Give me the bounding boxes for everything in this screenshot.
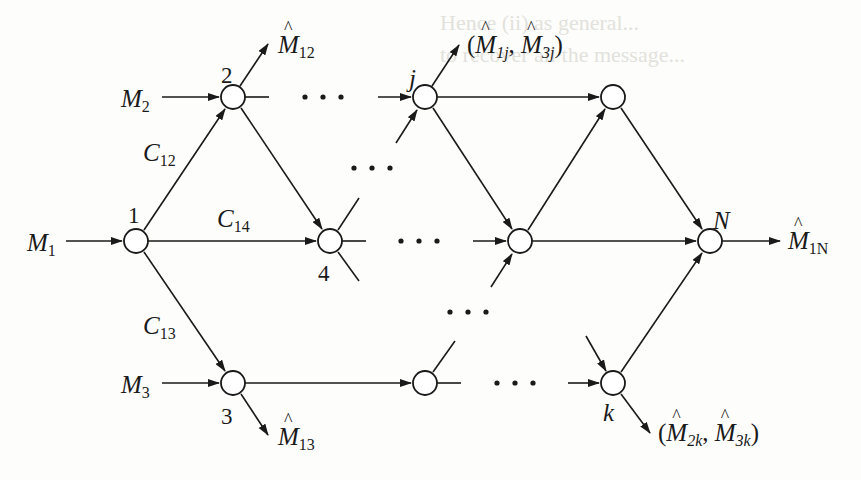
output-label-mk: (M2k, M3k) (658, 420, 759, 449)
edge-m-to-t (528, 109, 605, 230)
edge-k-out-mk (621, 394, 650, 433)
node-2 (221, 85, 245, 109)
node-label-2: 2 (221, 64, 233, 87)
node-k (601, 371, 625, 395)
node-label-1: 1 (128, 204, 140, 227)
input-label-m2: M2 (121, 86, 150, 115)
node-label-4: 4 (318, 262, 330, 285)
node-4 (318, 229, 342, 253)
edge-2-to-4 (241, 108, 322, 229)
input-label-m1: M1 (27, 230, 56, 259)
edge-into-j-diag (396, 110, 417, 143)
output-label-m13: M13 (278, 424, 315, 453)
output-label-m1n: M1N (788, 228, 828, 257)
node-label-N: N (713, 208, 730, 233)
output-label-mj: (M1j, M3j) (467, 32, 563, 61)
edge-4-stub-up (338, 198, 359, 230)
edge-4-stub-down (338, 252, 359, 281)
node-middle (508, 229, 532, 253)
node-top-right (601, 85, 625, 109)
edge-1-to-2 (144, 109, 225, 230)
ellipsis-middle (398, 238, 439, 243)
node-j (413, 85, 437, 109)
edge-label-c13: C13 (143, 313, 176, 342)
ellipsis-top (302, 94, 343, 99)
output-label-m12: M12 (278, 32, 315, 61)
node-label-j: j (409, 66, 416, 91)
node-bottom (413, 371, 437, 395)
ellipsis-lower-middle (447, 309, 488, 314)
network-diagram (0, 0, 861, 480)
ellipsis-bottom (494, 380, 535, 385)
edge-b-stub-up (433, 341, 455, 372)
input-label-m3: M3 (121, 372, 150, 401)
edge-j-to-m (433, 108, 512, 229)
node-3 (221, 371, 245, 395)
node-1 (124, 229, 148, 253)
ellipsis-upper-middle (351, 165, 392, 170)
edge-label-c12: C12 (143, 140, 176, 169)
edge-k-to-N (621, 253, 702, 372)
edge-into-k-diag (586, 336, 606, 371)
edge-into-m-diag (491, 254, 512, 287)
edge-j-out-mj (432, 45, 459, 86)
edge-t-to-N (621, 108, 702, 229)
node-label-3: 3 (221, 405, 233, 428)
edge-label-c14: C14 (217, 206, 250, 235)
edge-2-out-m12 (240, 44, 268, 86)
node-label-k: k (603, 400, 614, 425)
edge-3-out-m13 (241, 394, 268, 435)
